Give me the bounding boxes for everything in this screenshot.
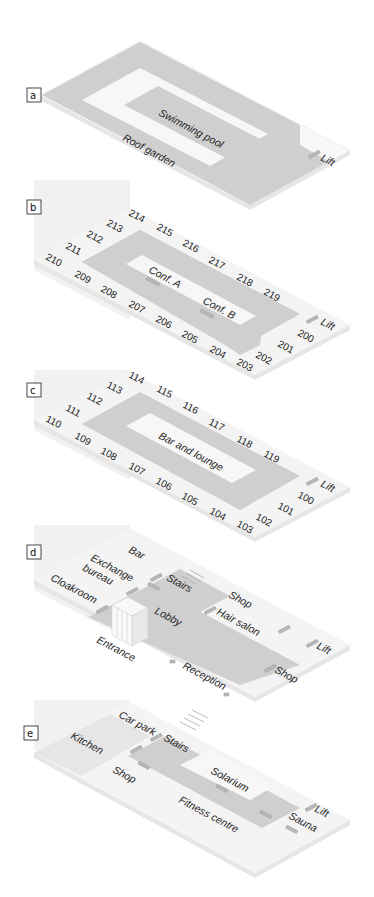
floor-tag-a: a [30,90,36,101]
reception-door [170,660,175,663]
reception-door-2 [224,693,229,696]
hotel-floor-plan: a Swimming pool Roof garden Lift b 214 2… [0,0,374,897]
floor-tag-b: b [30,202,36,213]
stairs-icon [180,710,208,730]
floor-e [34,700,350,878]
floor-tag-e: e [27,728,33,739]
floor-tag-d: d [30,547,36,558]
floor-tag-c: c [30,385,36,396]
